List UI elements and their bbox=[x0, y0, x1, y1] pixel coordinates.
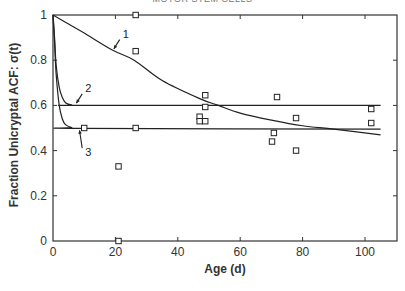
curve-1 bbox=[53, 15, 381, 135]
y-tick-label: 0.4 bbox=[30, 144, 47, 158]
y-tick-label: 0.6 bbox=[30, 98, 47, 112]
curve-label-3: 3 bbox=[85, 146, 91, 158]
y-tick-label: 0.8 bbox=[30, 53, 47, 67]
curve-3 bbox=[53, 15, 381, 129]
data-point-square bbox=[133, 125, 138, 130]
x-tick-label: 60 bbox=[234, 245, 248, 259]
y-axis-label: Fraction Unicryptal ACF: σ(t) bbox=[7, 20, 21, 230]
data-point-square bbox=[203, 104, 208, 109]
curve-2 bbox=[53, 15, 381, 105]
x-tick-label: 0 bbox=[50, 245, 57, 259]
data-point-square bbox=[293, 148, 298, 153]
y-tick-label: 0.2 bbox=[30, 189, 47, 203]
curve-label-1: 1 bbox=[123, 28, 129, 40]
y-tick-label: 1 bbox=[40, 8, 47, 22]
data-point-square bbox=[203, 119, 208, 124]
data-point-square bbox=[269, 139, 274, 144]
y-tick-label: 0 bbox=[40, 234, 47, 248]
x-tick-label: 20 bbox=[109, 245, 123, 259]
data-point-square bbox=[82, 125, 87, 130]
data-point-square bbox=[203, 93, 208, 98]
data-point-square bbox=[116, 164, 121, 169]
data-point-square bbox=[271, 130, 276, 135]
x-tick-label: 40 bbox=[171, 245, 185, 259]
data-point-square bbox=[197, 119, 202, 124]
data-point-square bbox=[274, 94, 279, 99]
chart-canvas: 02040608010000.20.40.60.81123 bbox=[0, 0, 405, 291]
data-point-square bbox=[133, 48, 138, 53]
data-point-square bbox=[369, 120, 374, 125]
x-axis-label: Age (d) bbox=[53, 262, 397, 276]
data-point-square bbox=[116, 238, 121, 243]
curve-label-2: 2 bbox=[85, 82, 91, 94]
data-point-square bbox=[133, 12, 138, 17]
x-tick-label: 80 bbox=[296, 245, 310, 259]
data-point-square bbox=[293, 115, 298, 120]
x-tick-label: 100 bbox=[355, 245, 375, 259]
data-point-square bbox=[369, 106, 374, 111]
